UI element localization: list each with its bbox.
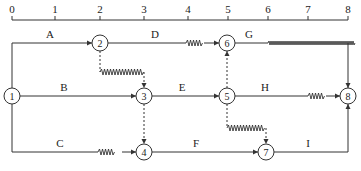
timeline-axis: 0 1 2 3 4 5 6 7 8 — [9, 3, 351, 20]
activity-label-a: A — [46, 28, 54, 40]
node-5: 5 — [219, 88, 235, 104]
node-8: 8 — [340, 88, 356, 104]
activity-h: H — [235, 81, 340, 99]
dummy-2-3 — [100, 51, 144, 88]
tick-label-8: 8 — [345, 3, 351, 15]
activity-label-i: I — [306, 137, 310, 149]
tick-label-4: 4 — [185, 3, 191, 15]
node-1: 1 — [4, 88, 20, 104]
activity-label-b: B — [60, 81, 67, 93]
activity-label-e: E — [179, 81, 186, 93]
time-scaled-network-diagram: 0 1 2 3 4 5 6 7 8 A B C D E F — [0, 0, 361, 171]
node-4: 4 — [136, 144, 152, 160]
tick-label-1: 1 — [52, 3, 58, 15]
dummy-5-7 — [227, 104, 266, 144]
activity-label-g: G — [245, 28, 253, 40]
activity-c: C — [12, 104, 136, 155]
activity-f: F — [152, 137, 258, 152]
tick-label-3: 3 — [141, 3, 147, 15]
activity-b: B — [20, 81, 136, 96]
activity-g: G — [235, 28, 355, 88]
activity-label-h: H — [261, 81, 269, 93]
node-label-6: 6 — [225, 38, 230, 49]
tick-label-6: 6 — [265, 3, 271, 15]
node-label-3: 3 — [142, 91, 147, 102]
activity-a: A — [12, 28, 92, 88]
node-label-4: 4 — [142, 147, 147, 158]
node-7: 7 — [258, 144, 274, 160]
activity-label-c: C — [56, 137, 63, 149]
node-label-5: 5 — [225, 91, 230, 102]
node-2: 2 — [92, 35, 108, 51]
activity-label-d: D — [151, 28, 159, 40]
tick-label-7: 7 — [305, 3, 311, 15]
tick-label-5: 5 — [225, 3, 231, 15]
node-6: 6 — [219, 35, 235, 51]
node-label-8: 8 — [346, 91, 351, 102]
activity-e: E — [152, 81, 219, 96]
node-label-2: 2 — [98, 38, 103, 49]
node-3: 3 — [136, 88, 152, 104]
activity-label-f: F — [193, 137, 199, 149]
node-label-1: 1 — [10, 91, 15, 102]
activity-i: I — [274, 104, 348, 152]
tick-label-0: 0 — [9, 3, 15, 15]
activity-d: D — [108, 28, 219, 46]
tick-label-2: 2 — [97, 3, 103, 15]
node-label-7: 7 — [264, 147, 269, 158]
